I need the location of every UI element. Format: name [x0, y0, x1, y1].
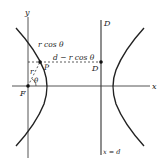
rcos-theta-label: r cos θ [38, 40, 64, 49]
focus-point [26, 84, 30, 88]
x-axis-label: x [152, 82, 157, 91]
hyperbola-right-branch [113, 28, 144, 146]
point-p [38, 60, 42, 64]
angle-label: θ [34, 77, 39, 85]
point-p-label: P [43, 63, 50, 72]
radius-label: r [30, 67, 34, 76]
focus-label: F [19, 89, 26, 98]
directrix-label: D [103, 19, 111, 28]
directrix-equation-label: x = d [103, 148, 120, 156]
d-minus-rcos-theta-label: d − r cos θ [53, 53, 95, 62]
diagram-canvas: y x D x = d F P D r θ r cos θ d − r cos … [0, 0, 163, 163]
y-axis-label: y [24, 8, 30, 17]
point-d-label: D [91, 64, 99, 73]
point-d [99, 60, 103, 64]
